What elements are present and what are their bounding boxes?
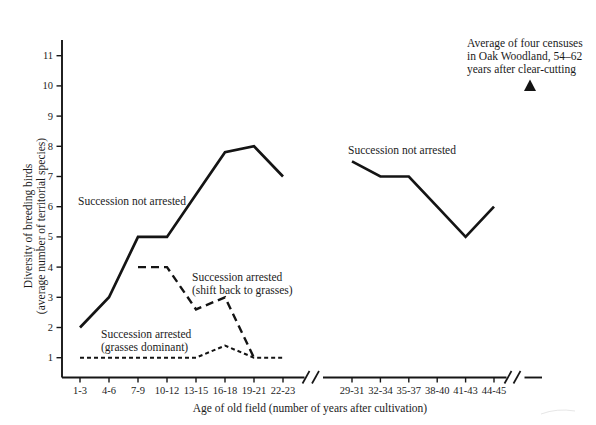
scan-artifact: [541, 410, 575, 414]
y-tick-label: 9: [48, 111, 53, 122]
x-tick-label: 19-21: [242, 385, 267, 396]
x-tick-label: 41-43: [453, 385, 478, 396]
y-axis-label-line2: (average number of territorial species): [35, 114, 48, 338]
annotation-succession-arrested-shift-back: Succession arrested (shift back to grass…: [192, 271, 293, 297]
axis-break: [312, 371, 319, 384]
y-tick-label: 3: [48, 292, 53, 303]
annotation-oak-line3: years after clear-cutting: [467, 63, 583, 76]
annotation-succession-not-arrested-right: Succession not arrested: [348, 144, 456, 157]
annotation-dotted-line1: Succession arrested: [101, 328, 191, 341]
y-tick-label: 4: [48, 262, 54, 273]
x-tick-label: 38-40: [425, 385, 450, 396]
x-tick-label: 29-31: [340, 385, 365, 396]
x-tick-label: 1-3: [73, 385, 87, 396]
oak-woodland-triangle-marker: [524, 79, 536, 91]
y-tick-label: 8: [48, 141, 53, 152]
y-tick-label: 6: [48, 201, 53, 212]
annotation-dotted-line2: (grasses dominant): [101, 341, 191, 354]
x-tick-label: 7-9: [131, 385, 145, 396]
y-tick-label: 1: [48, 352, 53, 363]
y-axis-label-line1: Diversity of breeding birds: [22, 114, 35, 338]
annotation-dashed-line2: (shift back to grasses): [192, 284, 293, 297]
y-tick-label: 2: [48, 322, 53, 333]
y-axis-label: Diversity of breeding birds (average num…: [22, 114, 48, 338]
x-tick-label: 16-18: [213, 385, 238, 396]
x-axis-label: Age of old field (number of years after …: [160, 402, 460, 414]
x-tick-label: 44-45: [482, 385, 507, 396]
axis-break: [514, 371, 521, 384]
x-tick-label: 4-6: [102, 385, 116, 396]
annotation-dashed-line1: Succession arrested: [192, 271, 293, 284]
figure-page: 12345678910111-34-67-910-1213-1516-1819-…: [0, 0, 596, 425]
annotation-oak-line1: Average of four censuses: [467, 37, 583, 50]
y-tick-label: 5: [48, 231, 53, 242]
x-tick-label: 13-15: [184, 385, 209, 396]
annotation-oak-woodland: Average of four censuses in Oak Woodland…: [467, 37, 583, 76]
series-not-arrested-left: [80, 146, 283, 327]
x-tick-label: 35-37: [397, 385, 422, 396]
annotation-succession-arrested-grasses: Succession arrested (grasses dominant): [101, 328, 191, 354]
y-tick-label: 10: [43, 80, 54, 91]
y-tick-label: 7: [48, 171, 53, 182]
x-tick-label: 22-23: [271, 385, 296, 396]
y-tick-label: 11: [43, 50, 53, 61]
series-not-arrested-right: [352, 161, 494, 237]
annotation-oak-line2: in Oak Woodland, 54–62: [467, 50, 583, 63]
x-tick-label: 10-12: [155, 385, 180, 396]
x-tick-label: 32-34: [368, 385, 393, 396]
annotation-succession-not-arrested-left: Succession not arrested: [78, 195, 186, 208]
